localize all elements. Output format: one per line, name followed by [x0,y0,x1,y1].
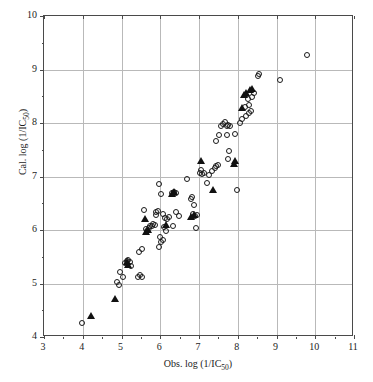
x-axis-minor-tick [335,337,336,339]
data-point-circle [141,207,147,213]
x-axis-title: Obs. log (1/IC50) [43,358,353,372]
x-axis-tick-top [160,16,161,19]
x-axis-minor-tick [63,337,64,339]
data-point-circle [191,202,197,208]
data-point-circle [234,187,240,193]
gridline-vertical [277,16,278,335]
data-point-triangle [162,221,170,228]
data-point-circle [215,162,221,168]
data-point-triangle [238,104,246,111]
x-axis-minor-tick [218,337,219,339]
data-point-triangle [248,85,256,92]
data-point-circle [256,71,262,77]
y-axis-tick [40,123,44,124]
x-axis-tick [122,335,123,339]
gridline-vertical [83,16,84,335]
data-point-circle [232,131,238,137]
data-point-triangle [170,188,178,195]
data-point-circle [224,132,230,138]
data-point-circle [152,222,158,228]
data-point-circle [156,244,162,250]
data-point-circle [116,282,122,288]
data-point-triangle [209,186,217,193]
data-point-triangle [231,157,239,164]
y-axis-tick [40,284,44,285]
y-axis-tick-label: 5 [19,276,37,289]
gridline-vertical [238,16,239,335]
data-point-circle [277,77,283,83]
data-point-circle [304,52,310,58]
x-axis-tick [277,335,278,339]
x-axis-tick-label: 10 [302,341,326,352]
y-axis-tick [40,337,44,338]
gridline-horizontal [44,70,352,71]
gridline-horizontal [44,123,352,124]
scatter-plot-figure: Obs. log (1/IC50) Cal. log (1/IC50) 3456… [0,0,373,382]
y-axis-tick-label: 10 [19,8,37,21]
x-axis-tick-label: 11 [341,341,365,352]
y-axis-minor-tick [42,257,44,258]
data-point-circle [79,320,85,326]
data-point-circle [170,223,176,229]
x-axis-tick-label: 5 [109,341,133,352]
x-axis-tick-top [277,16,278,19]
gridline-horizontal [44,284,352,285]
data-point-triangle [124,261,132,268]
x-axis-minor-tick [296,337,297,339]
x-axis-tick [44,335,45,339]
x-axis-tick-label: 7 [186,341,210,352]
x-axis-tick-top [315,16,316,19]
x-axis-tick-top [354,16,355,19]
data-point-circle [226,148,232,154]
x-axis-tick-label: 8 [225,341,249,352]
x-axis-minor-tick [102,337,103,339]
x-axis-tick-top [199,16,200,19]
gridline-vertical [315,16,316,335]
data-point-circle [193,225,199,231]
y-axis-minor-tick [42,96,44,97]
y-axis-tick [40,16,44,17]
x-axis-minor-tick [141,337,142,339]
data-point-triangle [144,226,152,233]
data-point-circle [176,213,182,219]
y-axis-tick [40,230,44,231]
data-point-circle [189,194,195,200]
y-axis-minor-tick [42,150,44,151]
data-point-circle [227,123,233,129]
data-point-circle [184,176,190,182]
plot-area [43,15,353,336]
data-point-circle [156,181,162,187]
x-axis-tick-top [122,16,123,19]
data-point-circle [213,138,219,144]
y-axis-tick-label: 8 [19,115,37,128]
x-axis-tick [238,335,239,339]
data-point-triangle [87,312,95,319]
y-axis-tick-label: 7 [19,169,37,182]
y-axis-tick [40,70,44,71]
x-axis-tick-label: 3 [31,341,55,352]
gridline-vertical [122,16,123,335]
data-point-circle [216,132,222,138]
gridline-horizontal [44,177,352,178]
data-point-circle [248,108,254,114]
x-axis-tick-top [44,16,45,19]
data-point-triangle [141,215,149,222]
x-axis-tick-top [238,16,239,19]
x-axis-tick [354,335,355,339]
y-axis-tick [40,177,44,178]
x-axis-tick [315,335,316,339]
y-axis-tick-label: 6 [19,222,37,235]
x-axis-minor-tick [180,337,181,339]
data-point-triangle [190,211,198,218]
data-point-circle [166,214,172,220]
gridline-vertical [160,16,161,335]
data-point-circle [139,274,145,280]
x-axis-tick-label: 4 [70,341,94,352]
x-axis-tick-label: 6 [147,341,171,352]
x-axis-tick [199,335,200,339]
data-point-circle [158,191,164,197]
x-axis-tick-top [83,16,84,19]
y-axis-minor-tick [42,203,44,204]
x-axis-tick [160,335,161,339]
y-axis-tick-label: 4 [19,329,37,342]
